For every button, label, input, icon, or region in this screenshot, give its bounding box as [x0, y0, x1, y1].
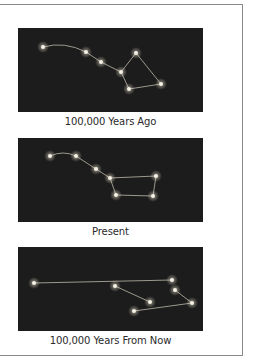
caption-present: Present — [18, 226, 203, 237]
star-icon — [32, 281, 36, 285]
star-icon — [108, 176, 112, 180]
constellation-future — [18, 247, 203, 331]
star-icon — [84, 50, 88, 54]
star-icon — [159, 82, 163, 86]
constellation-present — [18, 138, 203, 222]
star-icon — [148, 300, 152, 304]
star-icon — [113, 284, 117, 288]
star-icon — [119, 70, 123, 74]
star-icon — [170, 278, 174, 282]
star-icon — [154, 174, 158, 178]
constellation-line — [43, 45, 86, 52]
constellation-line — [134, 303, 192, 311]
sky-panel-future — [18, 247, 203, 331]
star-icon — [41, 45, 45, 49]
caption-future: 100,000 Years From Now — [18, 335, 203, 346]
star-icon — [94, 167, 98, 171]
star-icon — [132, 309, 136, 313]
star-icon — [99, 60, 103, 64]
star-icon — [48, 154, 52, 158]
constellation-past — [18, 28, 203, 112]
constellation-line — [110, 176, 156, 178]
star-icon — [190, 301, 194, 305]
star-icon — [134, 51, 138, 55]
star-icon — [114, 193, 118, 197]
sky-panel-past — [18, 28, 203, 112]
star-icon — [74, 154, 78, 158]
star-icon — [173, 288, 177, 292]
caption-past: 100,000 Years Ago — [18, 116, 203, 127]
star-icon — [151, 194, 155, 198]
sky-panel-present — [18, 138, 203, 222]
constellation-line — [34, 280, 172, 283]
star-icon — [127, 87, 131, 91]
